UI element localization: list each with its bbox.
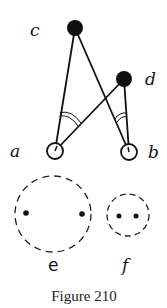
group-e <box>15 176 91 252</box>
group-e-dot-2 <box>79 211 85 217</box>
group-f <box>107 194 149 236</box>
group-f-dot-2 <box>134 214 139 219</box>
angle-arc-b-inner <box>117 116 127 122</box>
label-f: f <box>120 255 131 275</box>
figure-caption: Figure 210 <box>51 288 116 304</box>
label-a: a <box>10 141 20 161</box>
group-e-dot-1 <box>23 210 29 216</box>
label-e: e <box>48 255 58 275</box>
figure-210-diagram: c d a b e f Figure 210 <box>0 0 167 308</box>
node-b-tick <box>128 147 129 152</box>
edge-c-b <box>75 28 129 152</box>
edges <box>55 28 129 152</box>
node-c <box>67 20 83 36</box>
angle-arc-a-outer <box>60 112 81 123</box>
group-f-dot-1 <box>117 214 122 219</box>
label-c: c <box>30 20 40 40</box>
label-d: d <box>145 69 156 89</box>
group-f-boundary <box>107 194 149 236</box>
angle-arc-a-inner <box>60 116 79 126</box>
node-d <box>116 71 132 87</box>
label-b: b <box>148 142 159 162</box>
